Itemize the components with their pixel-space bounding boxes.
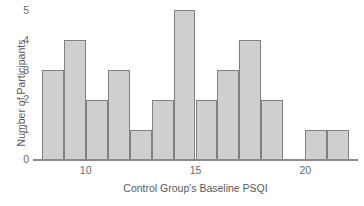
y-tick-label: 3 [15,64,29,76]
plot-area [33,10,358,160]
y-axis-title-container: Number of Participants [0,8,14,166]
histogram-bar [152,100,174,160]
x-axis-tick-labels: 101520 [33,163,358,177]
x-tick-label: 20 [290,163,320,177]
x-axis-line [33,159,358,161]
histogram-bar [174,10,196,160]
x-axis-title: Control Group's Baseline PSQI [33,182,358,194]
histogram-bar [86,100,108,160]
histogram-bar [108,70,130,160]
histogram-bar [239,40,261,160]
y-tick-label: 2 [15,93,29,105]
histogram-bar [64,40,86,160]
y-tick-label: 4 [15,34,29,46]
histogram-bar [196,100,218,160]
histogram-bar [42,70,64,160]
x-tick-label: 15 [181,163,211,177]
histogram-bar [327,130,349,160]
y-axis-tick-labels: 012345 [13,0,29,206]
histogram-bar [130,130,152,160]
histogram-bar [305,130,327,160]
histogram-bar [261,100,283,160]
y-tick-label: 1 [15,123,29,135]
y-tick-label: 0 [15,153,29,165]
x-tick-label: 10 [71,163,101,177]
y-tick-label: 5 [15,4,29,16]
histogram-bar [217,70,239,160]
histogram-figure: Number of Participants 012345 101520 Con… [0,0,364,206]
